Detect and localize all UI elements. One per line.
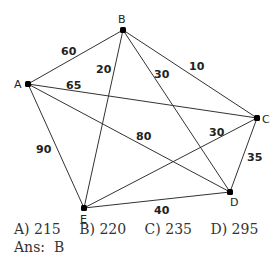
answer-label: Ans: [14,239,45,255]
edge-weight-a-e: 90 [36,143,52,156]
edge-weight-c-e: 30 [209,126,225,139]
node-label-b: B [118,13,126,26]
edge-weight-a-d: 80 [136,130,152,143]
edge-b-d [123,30,230,192]
edge-weight-a-b: 60 [61,45,77,58]
option-c: C) 235 [145,221,192,237]
edge-a-c [28,84,257,118]
edge-weight-c-d: 35 [247,151,262,164]
option-d: D) 295 [210,221,258,237]
node-d-icon [227,189,233,195]
node-a-icon [25,81,31,87]
node-label-a: A [14,78,22,91]
edge-b-c [123,30,257,118]
edge-weight-b-c: 10 [189,60,205,73]
edge-b-e [84,30,123,208]
options-row: A) 215 B) 220 C) 235 D) 295 [14,220,272,238]
edge-weight-b-e: 20 [96,63,112,76]
edge-a-d [28,84,230,192]
node-c-icon [254,115,260,121]
node-b-icon [120,27,126,33]
edge-weight-e-d: 40 [154,204,170,217]
option-b: B) 220 [79,221,126,237]
graph-nodes: ABCDE [14,13,270,226]
edge-weight-b-d: 30 [154,68,170,81]
node-e-icon [81,205,87,211]
answer-value: B [54,239,64,255]
edge-weight-a-c: 65 [66,79,81,92]
node-label-d: D [230,196,238,209]
answer-row: Ans: B [14,238,272,256]
option-a: A) 215 [14,221,61,237]
node-label-c: C [262,113,270,126]
answer-options: A) 215 B) 220 C) 235 D) 295 Ans: B [14,220,272,256]
